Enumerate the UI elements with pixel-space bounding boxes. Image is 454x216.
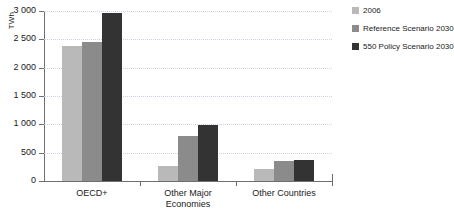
legend-swatch-icon [352,25,359,32]
gridline [44,181,332,182]
y-tick-label: 0 [0,175,36,185]
bar [274,161,294,181]
category-label: Other Countries [236,188,332,199]
y-tick-label: 2 500 [0,33,36,43]
legend-item-label: Reference Scenario 2030 [363,24,454,34]
x-tick-mark [140,181,141,186]
y-tick-label: 2 000 [0,62,36,72]
legend-swatch-icon [352,7,359,14]
bar [178,136,198,181]
legend-item[interactable]: 2006 [352,6,443,16]
bar [158,166,178,181]
bar [198,125,218,181]
bar-group [62,11,122,181]
x-axis-end-cap [332,174,333,181]
category-label: Other Major Economies [140,188,236,210]
y-tick-label: 1 000 [0,118,36,128]
bar [294,160,314,181]
legend-swatch-icon [352,43,359,50]
y-tick-label: 1 500 [0,90,36,100]
x-tick-mark [236,181,237,186]
y-tick-label: 500 [0,147,36,157]
bar [82,42,102,181]
plot-area [44,11,332,181]
bar [102,13,122,181]
legend-item-label: 2006 [363,6,381,16]
y-tick-label: 3 000 [0,5,36,15]
legend-item-label: 550 Policy Scenario 2030 [363,42,454,52]
category-label: OECD+ [44,188,140,199]
bar-group [254,11,314,181]
legend: 2006Reference Scenario 2030550 Policy Sc… [352,6,443,60]
bar-group [158,11,218,181]
legend-item[interactable]: Reference Scenario 2030 [352,24,443,34]
bar [62,46,82,181]
legend-item[interactable]: 550 Policy Scenario 2030 [352,42,443,52]
x-tick-mark [332,181,333,186]
bar [254,169,274,181]
